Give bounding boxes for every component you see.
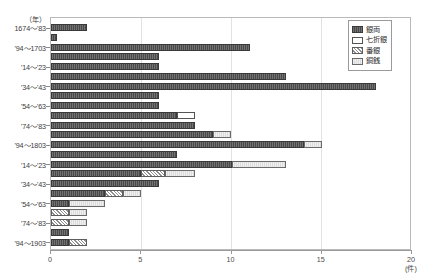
bar-segment-ginryo <box>51 24 87 31</box>
x-axis-tick <box>321 250 322 254</box>
bar-row <box>51 209 87 216</box>
legend-label: 銀両 <box>366 26 380 34</box>
bar-segment-ginryo <box>51 151 177 158</box>
legend-item-dosen: 銅銭 <box>352 56 387 66</box>
x-axis-tick-label: 0 <box>48 255 52 264</box>
bar-row <box>51 180 159 187</box>
chart-root: （年） 1674～'83'94～1703'14～'23'34～'43'54～'6… <box>0 0 425 277</box>
legend-item-nanaori: 七折銀 <box>352 35 387 45</box>
legend: 銀両七折銀番銀銅銭 <box>348 20 392 71</box>
bar-row <box>51 151 177 158</box>
y-axis-label: '54～'63 <box>0 101 46 111</box>
bar-segment-ginryo <box>51 229 69 236</box>
bar-row <box>51 170 195 177</box>
bar-row <box>51 141 322 148</box>
bar-segment-dosen <box>213 131 231 138</box>
y-axis-label: '14～'23 <box>0 160 46 170</box>
bar-segment-bangin <box>51 209 69 216</box>
bar-row <box>51 161 286 168</box>
bar-segment-dosen <box>165 170 196 177</box>
bar-segment-dosen <box>123 190 141 197</box>
legend-label: 七折銀 <box>366 36 387 44</box>
x-axis-tick-label: 15 <box>317 255 325 264</box>
bar-segment-bangin <box>141 170 164 177</box>
y-axis-labels: 1674～'83'94～1703'14～'23'34～'43'54～'63'74… <box>0 0 48 277</box>
bar-segment-ginryo <box>51 53 159 60</box>
bar-segment-ginryo <box>51 63 159 70</box>
legend-swatch-dosen <box>352 58 363 65</box>
y-axis-label: '14～'23 <box>0 62 46 72</box>
y-axis-label: '94～1803 <box>0 140 46 150</box>
bar-row <box>51 200 105 207</box>
bar-segment-ginryo <box>51 44 250 51</box>
x-axis-tick-label: 10 <box>227 255 235 264</box>
legend-item-bangin: 番銀 <box>352 46 387 56</box>
y-axis-label: '94～1903 <box>0 238 46 248</box>
y-axis-label: '74～'83 <box>0 121 46 131</box>
bar-row <box>51 34 57 41</box>
legend-item-ginryo: 銀両 <box>352 25 387 35</box>
y-axis-label: '34～'43 <box>0 82 46 92</box>
y-axis-label: '54～'63 <box>0 199 46 209</box>
x-axis-unit: (件) <box>405 263 417 273</box>
legend-label: 銅銭 <box>366 57 380 65</box>
y-axis-label: '94～1703 <box>0 43 46 53</box>
bar-row <box>51 102 159 109</box>
bar-segment-ginryo <box>51 83 376 90</box>
bar-segment-ginryo <box>51 102 159 109</box>
bar-segment-dosen <box>304 141 322 148</box>
bar-segment-bangin <box>105 190 123 197</box>
bar-row <box>51 44 250 51</box>
y-axis-label: '34～'43 <box>0 179 46 189</box>
bar-segment-ginryo <box>51 92 159 99</box>
x-axis-tick <box>411 250 412 254</box>
bar-segment-ginryo <box>51 180 159 187</box>
legend-swatch-ginryo <box>352 26 363 33</box>
bar-segment-dosen <box>232 161 286 168</box>
bar-row <box>51 92 159 99</box>
legend-label: 番銀 <box>366 47 380 55</box>
bar-segment-ginryo <box>51 122 195 129</box>
bar-segment-ginryo <box>51 190 105 197</box>
bar-row <box>51 239 87 246</box>
bar-segment-ginryo <box>51 170 141 177</box>
bar-segment-ginryo <box>51 141 304 148</box>
bar-row <box>51 53 159 60</box>
bar-segment-bangin <box>51 219 69 226</box>
bar-row <box>51 190 141 197</box>
bar-row <box>51 83 376 90</box>
bar-segment-ginryo <box>51 73 286 80</box>
bar-segment-ginryo <box>51 200 69 207</box>
bar-segment-ginryo <box>51 239 69 246</box>
bar-row <box>51 63 159 70</box>
x-axis-tick-label: 5 <box>138 255 142 264</box>
bar-row <box>51 219 87 226</box>
y-axis-label: 1674～'83 <box>0 23 46 33</box>
x-axis-tick <box>231 250 232 254</box>
bar-segment-ginryo <box>51 34 57 41</box>
y-axis-label: '74～'83 <box>0 218 46 228</box>
bar-segment-dosen <box>69 200 105 207</box>
bar-segment-ginryo <box>51 112 177 119</box>
bar-row <box>51 73 286 80</box>
bar-segment-dosen <box>69 209 87 216</box>
bar-segment-dosen <box>69 219 87 226</box>
bar-row <box>51 131 231 138</box>
x-axis-tick <box>140 250 141 254</box>
bar-segment-ginryo <box>51 131 213 138</box>
bar-segment-bangin <box>69 239 87 246</box>
legend-swatch-bangin <box>352 47 363 54</box>
x-axis-tick <box>50 250 51 254</box>
bar-segment-nanaori <box>177 112 195 119</box>
bar-row <box>51 24 87 31</box>
bar-row <box>51 122 195 129</box>
bar-row <box>51 112 195 119</box>
legend-swatch-nanaori <box>352 37 363 44</box>
bar-segment-ginryo <box>51 161 232 168</box>
bar-row <box>51 229 69 236</box>
